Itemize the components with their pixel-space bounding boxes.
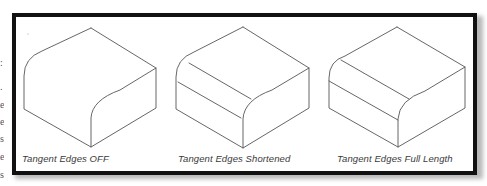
panel-label-full-length: Tangent Edges Full Length xyxy=(337,153,453,164)
block-tangent-off xyxy=(24,28,156,147)
panel-label-off: Tangent Edges OFF xyxy=(22,153,109,164)
panel-label-shortened: Tangent Edges Shortened xyxy=(178,153,290,164)
block-tangent-shortened xyxy=(176,27,309,148)
block-tangent-full-length xyxy=(329,27,465,147)
